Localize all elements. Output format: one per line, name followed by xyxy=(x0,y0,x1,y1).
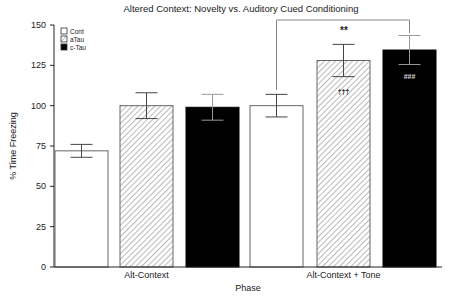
chart-title: Altered Context: Novelty vs. Auditory Cu… xyxy=(124,3,359,14)
x-tick-label: Alt-Context xyxy=(124,270,169,280)
legend: ContaTauc-Tau xyxy=(61,28,86,51)
legend-label: c-Tau xyxy=(70,44,86,51)
bars xyxy=(55,50,436,267)
y-axis-label: % Time Freezing xyxy=(8,112,18,180)
bar-c-tau-1 xyxy=(383,50,436,267)
y-tick-label: 0 xyxy=(41,262,46,272)
bar-chart: Altered Context: Novelty vs. Auditory Cu… xyxy=(0,0,450,305)
legend-swatch-atau xyxy=(61,36,67,42)
bar-cont-1 xyxy=(250,106,303,267)
dagger-annotation: ††† xyxy=(338,88,350,95)
bracket-label: ** xyxy=(340,25,348,36)
y-tick-label: 125 xyxy=(31,60,46,70)
y-tick-label: 25 xyxy=(36,222,46,232)
x-tick-label: Alt-Context + Tone xyxy=(306,270,380,280)
bar-atau-0 xyxy=(120,106,173,267)
bar-cont-0 xyxy=(55,151,108,267)
bar-c-tau-0 xyxy=(186,107,239,267)
y-axis: 0255075100125150 xyxy=(31,20,54,272)
legend-label: aTau xyxy=(70,36,84,43)
legend-swatch-c-tau xyxy=(61,44,67,50)
y-tick-label: 50 xyxy=(36,181,46,191)
y-tick-label: 100 xyxy=(31,101,46,111)
y-tick-label: 75 xyxy=(36,141,46,151)
x-tick-labels: Alt-ContextAlt-Context + Tone xyxy=(124,270,380,280)
x-axis-label: Phase xyxy=(235,283,261,293)
legend-label: Cont xyxy=(70,28,84,35)
legend-swatch-cont xyxy=(61,28,67,34)
hash-annotation: ### xyxy=(404,73,416,80)
y-tick-label: 150 xyxy=(31,20,46,30)
